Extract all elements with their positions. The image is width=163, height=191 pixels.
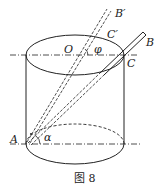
figure-caption: 图 8: [74, 172, 96, 185]
label-phi: φ: [94, 43, 102, 56]
label-c-prime: C′: [107, 28, 118, 41]
rod-submerged-upper-edge: [28, 73, 100, 143]
bottom-ellipse-back: [26, 124, 124, 144]
point-dot: [30, 133, 32, 135]
rod-top-cap: [143, 32, 146, 35]
label-alpha: α: [44, 131, 52, 144]
rod-image-right-edge: [30, 11, 111, 143]
label-a: A: [9, 133, 18, 146]
label-o: O: [64, 43, 73, 56]
label-b: B: [145, 36, 154, 49]
rod-submerged-lower-edge: [31, 75, 104, 145]
bottom-ellipse-front: [26, 144, 124, 164]
label-b-prime: B′: [114, 7, 126, 20]
cylinder-diagram: B′ C′ B O φ C A α 图 8: [0, 0, 163, 191]
label-c: C: [127, 57, 136, 70]
rod-image-left-edge: [27, 9, 107, 142]
